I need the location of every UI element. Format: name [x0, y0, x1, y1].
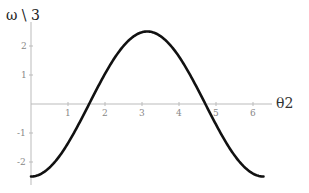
x-axis-label: θ2 [276, 95, 293, 111]
x-tick-label: 4 [176, 108, 182, 118]
y-tick-label: -1 [17, 128, 26, 138]
y-tick-label: -2 [17, 157, 26, 167]
x-tick-label: 1 [65, 108, 71, 118]
x-tick-label: 6 [250, 108, 256, 118]
plot-area: 123456-2-112 [0, 0, 309, 193]
x-tick-label: 3 [139, 108, 145, 118]
chart: 123456-2-112 ω \ 3 θ2 [0, 0, 309, 193]
y-axis-label: ω \ 3 [6, 7, 40, 23]
y-tick-label: 2 [21, 41, 27, 51]
x-tick-label: 5 [213, 108, 219, 118]
x-tick-label: 2 [102, 108, 108, 118]
y-tick-label: 1 [21, 70, 27, 80]
